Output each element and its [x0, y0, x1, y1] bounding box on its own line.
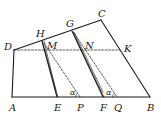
label-P: P — [76, 102, 84, 113]
angle-arc-P — [75, 93, 77, 97]
label-D: D — [3, 41, 12, 52]
angle-label-P: α — [70, 88, 76, 97]
label-C: C — [98, 8, 106, 19]
label-B: B — [146, 102, 154, 113]
label-K: K — [123, 43, 132, 54]
label-H: H — [35, 28, 45, 39]
segment-CB — [101, 20, 150, 97]
label-E: E — [53, 102, 62, 113]
label-A: A — [8, 102, 16, 113]
label-N: N — [84, 40, 95, 51]
segment-DA — [12, 50, 14, 97]
label-G: G — [66, 18, 74, 29]
label-M: M — [46, 40, 58, 51]
angle-label-Q: α — [106, 88, 112, 97]
label-Q: Q — [114, 102, 122, 113]
geometry-diagram: D H G C M N K A E P F Q B α α — [0, 0, 161, 128]
label-F: F — [99, 102, 108, 113]
angle-arc-Q — [112, 93, 114, 97]
